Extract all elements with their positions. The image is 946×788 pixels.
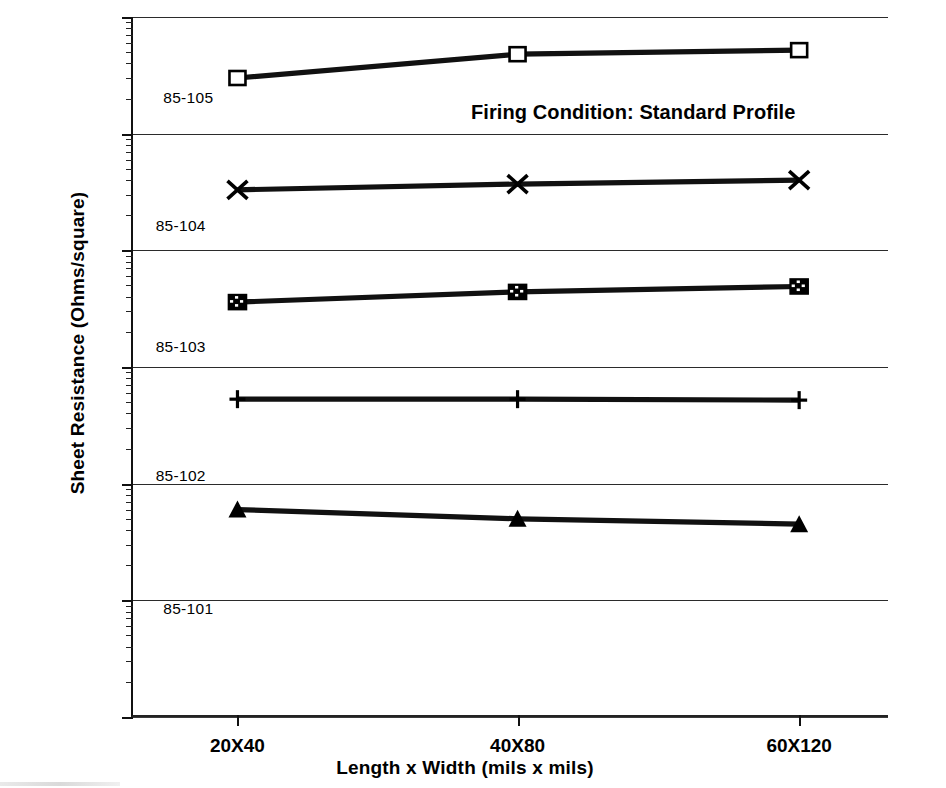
series-85-101 <box>228 501 808 533</box>
y-axis-minor-tick <box>126 78 133 79</box>
y-axis-minor-tick <box>126 262 133 263</box>
y-axis-minor-tick <box>126 372 133 373</box>
y-axis-minor-tick <box>126 606 133 607</box>
x-axis-tick-label: 40X80 <box>490 735 545 757</box>
y-axis-minor-tick <box>126 612 133 613</box>
y-axis-minor-tick <box>126 626 133 627</box>
y-axis-minor-tick <box>126 519 133 520</box>
plot-area: 20X4040X8060X120 85-10585-10485-10385-10… <box>131 17 888 717</box>
y-axis-minor-tick <box>126 35 133 36</box>
y-axis-minor-tick <box>126 332 133 333</box>
y-axis-minor-tick <box>126 413 133 414</box>
y-axis-minor-tick <box>126 385 133 386</box>
y-axis-minor-tick <box>126 256 133 257</box>
y-axis-minor-tick <box>126 449 133 450</box>
data-point-marker <box>791 391 807 409</box>
series-85-103 <box>228 279 808 310</box>
y-axis-minor-tick <box>126 152 133 153</box>
y-axis-major-tick <box>122 367 133 369</box>
y-axis-minor-tick <box>126 682 133 683</box>
x-axis-title: Length x Width (mils x mils) <box>135 757 795 779</box>
y-axis-major-tick <box>122 484 133 486</box>
y-axis-minor-tick <box>126 63 133 64</box>
y-axis-minor-tick <box>126 297 133 298</box>
y-axis-title: Sheet Resistance (Ohms/square) <box>67 143 89 543</box>
y-axis-minor-tick <box>126 169 133 170</box>
y-axis-minor-tick <box>126 195 133 196</box>
y-axis-minor-tick <box>126 530 133 531</box>
y-axis-minor-tick <box>126 180 133 181</box>
y-axis-minor-tick <box>126 285 133 286</box>
y-axis-minor-tick <box>126 99 133 100</box>
y-axis-minor-tick <box>126 635 133 636</box>
y-axis-minor-tick <box>126 311 133 312</box>
y-axis-minor-tick <box>126 378 133 379</box>
data-point-marker <box>510 47 526 61</box>
y-axis-minor-tick <box>126 276 133 277</box>
y-axis-minor-tick <box>126 145 133 146</box>
y-axis-minor-tick <box>126 139 133 140</box>
y-axis-minor-tick <box>126 618 133 619</box>
data-point-marker <box>228 295 246 310</box>
y-axis-minor-tick <box>126 22 133 23</box>
series-85-104 <box>227 171 809 199</box>
y-axis-minor-tick <box>126 268 133 269</box>
series-85-105 <box>229 43 807 85</box>
y-axis-major-tick <box>122 717 133 719</box>
y-axis-minor-tick <box>126 402 133 403</box>
data-point-marker <box>791 43 807 57</box>
y-axis-minor-tick <box>126 489 133 490</box>
x-axis-tick-label: 20X40 <box>210 735 265 757</box>
y-axis-minor-tick <box>126 647 133 648</box>
y-axis-minor-tick <box>126 565 133 566</box>
y-axis-major-tick <box>122 134 133 136</box>
y-axis-minor-tick <box>126 502 133 503</box>
y-axis-minor-tick <box>126 428 133 429</box>
y-axis-major-tick <box>122 250 133 252</box>
y-axis-minor-tick <box>126 52 133 53</box>
data-point-marker <box>509 284 527 299</box>
chart-figure: Sheet Resistance (Ohms/square) Length x … <box>0 0 946 788</box>
y-axis-minor-tick <box>126 495 133 496</box>
x-axis-tick-label: 60X120 <box>766 735 832 757</box>
gridline <box>133 717 888 718</box>
data-point-marker <box>229 71 245 85</box>
data-point-marker <box>510 390 526 408</box>
y-axis-major-tick <box>122 600 133 602</box>
y-axis-major-tick <box>122 17 133 19</box>
data-point-marker <box>790 279 808 294</box>
y-axis-minor-tick <box>126 661 133 662</box>
data-point-marker <box>229 390 245 408</box>
series-85-102 <box>229 390 807 409</box>
data-series-layer <box>133 17 890 717</box>
y-axis-minor-tick <box>126 545 133 546</box>
y-axis-minor-tick <box>126 510 133 511</box>
y-axis-minor-tick <box>126 393 133 394</box>
y-axis-minor-tick <box>126 43 133 44</box>
scan-artifact <box>0 782 120 786</box>
y-axis-minor-tick <box>126 160 133 161</box>
y-axis-minor-tick <box>126 215 133 216</box>
y-axis-minor-tick <box>126 28 133 29</box>
